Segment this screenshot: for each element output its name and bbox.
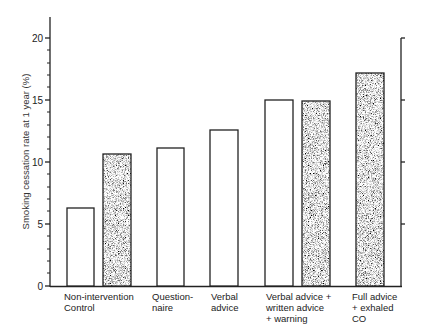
- bar-verbal-open: [210, 130, 238, 286]
- category-label-verbal: Verbal advice: [211, 291, 238, 313]
- y-tick-10: 10: [32, 157, 44, 168]
- category-label-full-advice: Full advice + exhaled CO: [352, 291, 397, 324]
- category-label-questionnaire: Question- naire: [152, 291, 193, 313]
- bar-control-stippled: [103, 154, 131, 286]
- bar-full-advice-stippled: [356, 73, 384, 286]
- category-label-verbal-written: Verbal advice + written advice + warning: [266, 291, 331, 324]
- y-tick-5: 5: [37, 219, 43, 230]
- bar-chart: 0 5 10 15 20: [0, 0, 424, 335]
- y-axis-label: Smoking cessation rate at 1 year (%): [20, 67, 31, 237]
- bars: [67, 73, 384, 286]
- bar-verbal-written-open: [265, 100, 293, 286]
- bar-control-open: [67, 208, 94, 286]
- bar-questionnaire-open: [157, 148, 184, 286]
- bar-verbal-written-stippled: [302, 101, 330, 286]
- y-tick-20: 20: [32, 33, 44, 44]
- y-tick-15: 15: [32, 95, 44, 106]
- y-tick-0: 0: [37, 281, 43, 292]
- right-axis: [401, 38, 405, 287]
- category-label-control: Non-intervention Control: [64, 291, 134, 313]
